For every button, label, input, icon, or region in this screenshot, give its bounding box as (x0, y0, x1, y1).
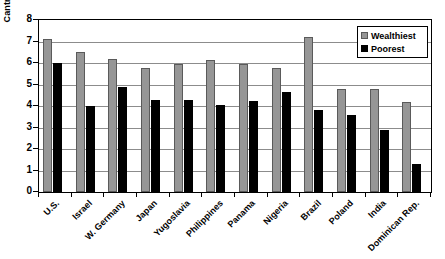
bar-wealthiest (370, 89, 379, 192)
bar-poorest (314, 110, 323, 192)
x-axis-tick-mark (234, 192, 235, 197)
bar-wealthiest (108, 59, 117, 192)
bar-poorest (249, 101, 258, 192)
bar-poorest (184, 100, 193, 192)
y-axis-title-label: Cantril Personal Happiness Rating (0, 0, 14, 33)
bar-wealthiest (174, 64, 183, 192)
x-axis-tick-mark (365, 192, 366, 197)
bar-wealthiest (206, 60, 215, 192)
gridline (39, 63, 431, 64)
wealthiest-swatch-icon (361, 32, 368, 39)
bar-chart: Cantril Personal Happiness Rating 012345… (0, 0, 445, 259)
x-axis-tick-mark (430, 192, 431, 197)
legend-item-label: Wealthiest (371, 31, 416, 41)
x-axis-tick-mark (71, 192, 72, 197)
bar-poorest (151, 100, 160, 192)
bar-poorest (118, 87, 127, 192)
y-axis-tick-label: 6 (18, 57, 32, 67)
bar-wealthiest (402, 102, 411, 192)
bar-wealthiest (76, 52, 85, 192)
x-axis-tick-mark (332, 192, 333, 197)
y-axis-tick-label: 0 (18, 186, 32, 196)
bar-wealthiest (272, 68, 281, 192)
bar-wealthiest (141, 68, 150, 192)
bar-wealthiest (43, 39, 52, 192)
x-axis-tick-mark (201, 192, 202, 197)
bar-poorest (380, 130, 389, 192)
y-axis-tick-label: 8 (18, 14, 32, 24)
x-axis-tick-mark (38, 192, 39, 197)
y-axis-tick-label: 4 (18, 100, 32, 110)
bar-wealthiest (304, 37, 313, 192)
bar-poorest (282, 92, 291, 192)
x-axis-tick-mark (397, 192, 398, 197)
bar-poorest (347, 115, 356, 192)
bar-wealthiest (239, 64, 248, 192)
y-axis-tick-label: 5 (18, 79, 32, 89)
x-axis-tick-mark (136, 192, 137, 197)
bar-poorest (53, 63, 62, 192)
y-axis-tick-label: 7 (18, 36, 32, 46)
x-axis-tick-mark (103, 192, 104, 197)
x-axis-tick-mark (169, 192, 170, 197)
y-axis-title: Cantril Personal Happiness Rating (0, 0, 14, 33)
x-axis-tick-mark (267, 192, 268, 197)
bar-wealthiest (337, 89, 346, 192)
bar-poorest (412, 164, 421, 192)
legend-item-label: Poorest (371, 44, 405, 54)
legend-item-wealthiest: Wealthiest (361, 29, 427, 42)
y-axis-tick-label: 1 (18, 165, 32, 175)
y-axis-tick-label: 2 (18, 143, 32, 153)
chart-legend: Wealthiest Poorest (357, 26, 428, 58)
y-axis-tick-labels: 012345678 (16, 0, 32, 259)
y-axis-tick-label: 3 (18, 122, 32, 132)
x-axis-tick-mark (299, 192, 300, 197)
bar-poorest (216, 105, 225, 192)
bar-poorest (86, 106, 95, 192)
legend-item-poorest: Poorest (361, 42, 427, 55)
gridline (39, 85, 431, 86)
poorest-swatch-icon (361, 45, 368, 52)
